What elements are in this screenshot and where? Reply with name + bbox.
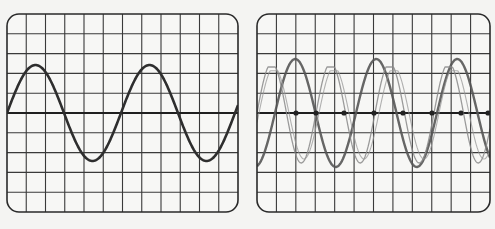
right-scope-screen: Noisy overlapping waveforms <box>0 0 495 229</box>
right-waveform-chart <box>0 0 495 229</box>
zero-crossing-marker <box>341 110 346 115</box>
zero-crossing-marker <box>371 110 376 115</box>
zero-crossing-marker <box>293 110 298 115</box>
zero-crossing-marker <box>458 110 463 115</box>
zero-crossing-marker <box>429 110 434 115</box>
zero-crossing-marker <box>313 110 318 115</box>
zero-crossing-marker <box>400 110 405 115</box>
